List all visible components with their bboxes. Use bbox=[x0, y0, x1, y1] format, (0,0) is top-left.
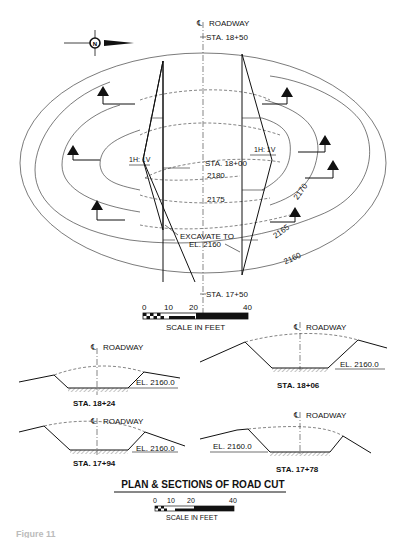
plan-centerline-label: ROADWAY bbox=[209, 19, 250, 28]
contour-label-2160: 2160 bbox=[282, 250, 302, 266]
svg-text:EL. 2160.0: EL. 2160.0 bbox=[213, 442, 252, 451]
contour-label-2170: 2170 bbox=[292, 181, 310, 201]
svg-text:℄: ℄ bbox=[196, 19, 203, 28]
svg-text:ROADWAY: ROADWAY bbox=[306, 323, 347, 332]
slope-left-label: 1H: 1V bbox=[129, 156, 151, 163]
scale-bar-bottom: 0 10 20 40 SCALE IN FEET bbox=[153, 497, 237, 521]
svg-text:STA. 18+06: STA. 18+06 bbox=[277, 381, 320, 390]
svg-text:℄: ℄ bbox=[293, 411, 300, 420]
contour-label-2180: 2180 bbox=[207, 171, 225, 180]
section-sta-17-94: ℄ ROADWAY EL. 2160.0 STA. 17+94 bbox=[19, 417, 185, 468]
section-marker-6 bbox=[305, 160, 339, 178]
svg-text:STA. 18+24: STA. 18+24 bbox=[73, 399, 116, 408]
svg-text:STA. 17+78: STA. 17+78 bbox=[276, 465, 319, 474]
svg-text:EL. 2160.0: EL. 2160.0 bbox=[340, 360, 379, 369]
svg-text:℄: ℄ bbox=[90, 343, 97, 352]
contour-2170 bbox=[62, 100, 318, 212]
scale-bar-top: 0 10 20 40 SCALE IN FEET bbox=[142, 303, 252, 332]
svg-text:40: 40 bbox=[243, 303, 252, 312]
contour-2175-edge bbox=[100, 118, 290, 190]
section-marker-2 bbox=[67, 145, 100, 160]
contour-2165 bbox=[35, 76, 370, 243]
svg-text:ROADWAY: ROADWAY bbox=[306, 411, 347, 420]
station-top-label: STA. 18+50 bbox=[206, 33, 248, 42]
section-marker-4 bbox=[262, 87, 293, 104]
svg-text:0: 0 bbox=[153, 497, 157, 504]
station-mid-label: STA. 18+00 bbox=[205, 159, 247, 168]
section-marker-5 bbox=[298, 135, 331, 152]
svg-text:℄: ℄ bbox=[293, 323, 300, 332]
road-cut-drawing: N ℄ ROADWAY STA. 18+50 bbox=[0, 0, 405, 538]
svg-text:EL. 2160.0: EL. 2160.0 bbox=[136, 444, 175, 453]
svg-text:EL. 2160.0: EL. 2160.0 bbox=[136, 378, 175, 387]
section-marker-1 bbox=[97, 86, 135, 104]
svg-text:N: N bbox=[93, 41, 97, 47]
svg-text:20: 20 bbox=[187, 497, 195, 504]
contour-label-2175: 2175 bbox=[207, 195, 225, 204]
north-arrow-icon: N bbox=[64, 30, 134, 56]
svg-text:20: 20 bbox=[189, 303, 198, 312]
svg-text:STA. 17+94: STA. 17+94 bbox=[73, 459, 116, 468]
station-bottom-label: STA. 17+50 bbox=[206, 290, 248, 299]
svg-text:ROADWAY: ROADWAY bbox=[103, 343, 144, 352]
section-sta-17-78: ℄ ROADWAY EL. 2160.0 STA. 17+78 bbox=[200, 411, 371, 474]
section-marker-7 bbox=[270, 207, 301, 222]
svg-text:10: 10 bbox=[167, 497, 175, 504]
slope-right-label: 1H: 1V bbox=[254, 146, 276, 153]
svg-text:SCALE IN FEET: SCALE IN FEET bbox=[166, 514, 218, 521]
figure-caption: Figure 11 bbox=[16, 529, 56, 538]
section-marker-3 bbox=[91, 200, 125, 220]
contour-label-2165: 2165 bbox=[271, 222, 291, 240]
drawing-title: PLAN & SECTIONS OF ROAD CUT bbox=[121, 479, 284, 490]
svg-text:SCALE IN FEET: SCALE IN FEET bbox=[166, 323, 225, 332]
svg-text:0: 0 bbox=[142, 303, 147, 312]
section-sta-18-24: ℄ ROADWAY EL. 2160.0 STA. 18+24 bbox=[19, 343, 180, 408]
excavate-label-line2: EL. 2160 bbox=[189, 240, 222, 249]
section-sta-18-06: ℄ ROADWAY EL. 2160.0 STA. 18+06 bbox=[200, 322, 387, 390]
svg-text:40: 40 bbox=[229, 497, 237, 504]
svg-text:10: 10 bbox=[164, 303, 173, 312]
